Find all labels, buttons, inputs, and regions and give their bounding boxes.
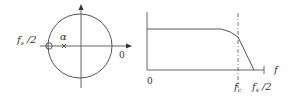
fs-half-label-left: fs /2 [16,34,37,46]
fc-label: fc [233,81,242,93]
f-axis-label: f [273,64,280,75]
origin-zero-label-right: 0 [147,76,153,86]
z-plane-panel: α fs /2 0 [16,4,132,88]
frequency-response-panel: 0 fc fs /2 f [147,12,280,93]
fs-half-label-right: fs /2 [251,81,272,93]
alpha-label: α [60,31,67,42]
imag-axis-arrow-icon [79,4,84,10]
filter-diagram: α fs /2 0 0 fc fs /2 f [0,0,295,100]
origin-zero-label-left: 0 [119,50,125,60]
real-axis-arrow-icon [126,44,132,49]
